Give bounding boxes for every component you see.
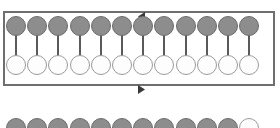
pendulum-open-ring[interactable]	[218, 55, 238, 75]
pendulum-bob[interactable]	[6, 118, 26, 128]
pendulum-bob[interactable]	[176, 16, 196, 36]
pendulum-bob[interactable]	[112, 16, 132, 36]
pendulum-stem	[142, 34, 144, 56]
pendulum-stem	[248, 34, 250, 56]
pendulum-open-ring[interactable]	[197, 55, 217, 75]
pendulum-stem	[121, 34, 123, 56]
pendulum-stem	[185, 34, 187, 56]
figure-title: Array of coupled pendulum units inside a…	[0, 0, 1, 1]
pendulum-bob[interactable]	[48, 118, 68, 128]
pendulum-open-ring[interactable]	[239, 118, 259, 128]
pendulum-bob[interactable]	[70, 118, 90, 128]
pendulum-bob[interactable]	[197, 118, 217, 128]
pendulum-bob[interactable]	[154, 118, 174, 128]
pendulum-bob[interactable]	[176, 118, 196, 128]
figure-canvas: Array of coupled pendulum units inside a…	[0, 0, 280, 128]
pendulum-open-ring[interactable]	[112, 55, 132, 75]
pendulum-open-ring[interactable]	[176, 55, 196, 75]
pendulum-open-ring[interactable]	[91, 55, 111, 75]
pendulum-bob[interactable]	[112, 118, 132, 128]
pendulum-bob[interactable]	[91, 118, 111, 128]
pendulum-stem	[163, 34, 165, 56]
pendulum-open-ring[interactable]	[6, 55, 26, 75]
pendulum-stem	[206, 34, 208, 56]
pendulum-stem	[36, 34, 38, 56]
pendulum-open-ring[interactable]	[70, 55, 90, 75]
upper-array-caption: Upper array: 12 pendulum units enclosed …	[0, 0, 1, 1]
lower-array-partial-caption: Lower array (clipped by image edge): 11 …	[0, 0, 1, 1]
pendulum-stem	[57, 34, 59, 56]
pendulum-bob[interactable]	[133, 118, 153, 128]
pendulum-bob[interactable]	[218, 16, 238, 36]
pendulum-stem	[15, 34, 17, 56]
pendulum-stem	[79, 34, 81, 56]
pendulum-bob[interactable]	[218, 118, 238, 128]
pendulum-bob[interactable]	[27, 118, 47, 128]
bottom-rail-arrow	[138, 85, 146, 94]
pendulum-bob[interactable]	[197, 16, 217, 36]
pendulum-stem	[100, 34, 102, 56]
pendulum-bob[interactable]	[70, 16, 90, 36]
pendulum-bob[interactable]	[6, 16, 26, 36]
pendulum-bob[interactable]	[91, 16, 111, 36]
pendulum-stem	[227, 34, 229, 56]
